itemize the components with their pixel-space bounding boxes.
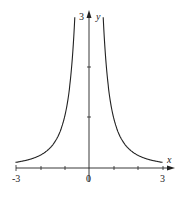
y-arrow-icon xyxy=(87,10,92,18)
y-axis-label: y xyxy=(95,11,101,22)
x-axis xyxy=(16,165,175,171)
chart: -3 0 3 3 y x xyxy=(0,0,192,201)
x-arrow-icon xyxy=(167,166,175,171)
y-max-label: 3 xyxy=(79,11,84,22)
origin-label: 0 xyxy=(86,173,91,184)
y-axis xyxy=(87,10,92,182)
curve-left-branch xyxy=(16,17,75,162)
x-max-label: 3 xyxy=(160,173,165,184)
curve-right-branch xyxy=(103,17,162,162)
x-min-label: -3 xyxy=(12,173,20,184)
x-axis-label: x xyxy=(166,154,172,165)
